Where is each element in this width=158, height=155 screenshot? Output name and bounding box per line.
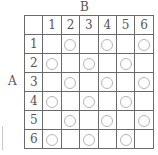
grid-cell (116, 54, 134, 73)
circle-icon (101, 77, 113, 89)
grid-cell (61, 92, 79, 111)
circle-icon (120, 58, 132, 70)
grid-cell (80, 111, 98, 130)
grid-cell (61, 35, 79, 54)
circle-icon (120, 96, 132, 108)
grid-cell (80, 92, 98, 111)
row-header: 1 (25, 35, 43, 54)
circle-icon (101, 39, 113, 51)
grid-cell (43, 73, 61, 92)
circle-icon (138, 115, 150, 127)
circle-icon (83, 58, 95, 70)
grid-cell (135, 35, 153, 54)
row-header: 3 (25, 73, 43, 92)
grid-cell (61, 73, 79, 92)
row-header: 4 (25, 92, 43, 111)
grid-cell (116, 130, 134, 149)
grid-cell (98, 73, 116, 92)
column-header: 5 (116, 16, 134, 35)
grid-cell (61, 54, 79, 73)
grid-cell (135, 73, 153, 92)
circle-icon (83, 96, 95, 108)
grid-row: 4 (25, 92, 154, 111)
corner-cell (25, 16, 43, 35)
grid-cell (135, 92, 153, 111)
circle-icon (138, 39, 150, 51)
grid-cell (98, 111, 116, 130)
column-header: 3 (80, 16, 98, 35)
grid-row: 5 (25, 111, 154, 130)
grid-cell (135, 130, 153, 149)
circle-icon (64, 39, 76, 51)
circle-icon (83, 134, 95, 146)
grid-cell (80, 35, 98, 54)
column-header: 2 (61, 16, 79, 35)
grid-row: 1 (25, 35, 154, 54)
circle-icon (46, 134, 58, 146)
circle-icon (138, 77, 150, 89)
grid-cell (61, 111, 79, 130)
grid-cell (116, 111, 134, 130)
grid-cell (116, 92, 134, 111)
grid-cell (98, 92, 116, 111)
grid-cell (116, 35, 134, 54)
grid-cell (43, 92, 61, 111)
column-axis-label: B (80, 0, 89, 14)
circle-icon (46, 96, 58, 108)
results-grid: 123456123456 (24, 15, 154, 149)
grid-cell (135, 111, 153, 130)
grid-cell (116, 73, 134, 92)
grid-cell (80, 73, 98, 92)
column-header: 6 (135, 16, 153, 35)
column-header: 4 (98, 16, 116, 35)
circle-icon (64, 115, 76, 127)
column-header: 1 (43, 16, 61, 35)
row-header: 2 (25, 54, 43, 73)
grid-cell (43, 130, 61, 149)
grid-row: 2 (25, 54, 154, 73)
grid-row: 6 (25, 130, 154, 149)
row-header: 6 (25, 130, 43, 149)
grid-cell (43, 111, 61, 130)
edge-line (2, 126, 3, 150)
grid-cell (98, 54, 116, 73)
circle-icon (120, 134, 132, 146)
grid-cell (80, 54, 98, 73)
grid-cell (43, 54, 61, 73)
circle-icon (101, 115, 113, 127)
grid-cell (61, 130, 79, 149)
row-axis-label: A (8, 74, 17, 88)
grid-cell (135, 54, 153, 73)
grid-cell (98, 130, 116, 149)
circle-icon (46, 58, 58, 70)
grid-row: 3 (25, 73, 154, 92)
row-header: 5 (25, 111, 43, 130)
circle-icon (64, 77, 76, 89)
grid-cell (80, 130, 98, 149)
grid-cell (98, 35, 116, 54)
header-row: 123456 (25, 16, 154, 35)
grid-cell (43, 35, 61, 54)
